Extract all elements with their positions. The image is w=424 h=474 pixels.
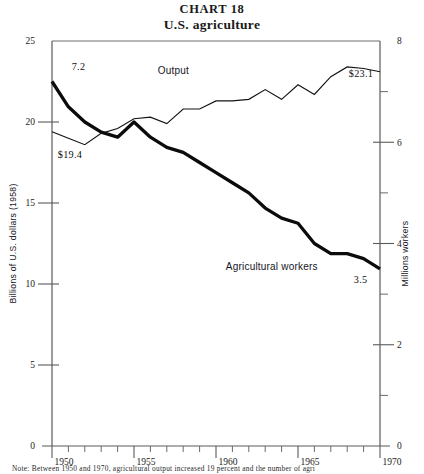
left-axis-tick-label: 5	[30, 360, 35, 370]
right-axis-tick-label: 0	[397, 441, 402, 451]
chart-number-label: CHART 18	[0, 2, 424, 17]
workers-end-value-label: 3.5	[354, 274, 368, 285]
output-start-value-label: $19.4	[58, 149, 82, 160]
chart-figure: CHART 18 U.S. agriculture 0510152025Bill…	[0, 0, 424, 474]
workers-start-value-label: 7.2	[72, 61, 86, 72]
right-axis-tick-label: 2	[397, 340, 402, 350]
right-axis-title: Millions workers	[400, 221, 410, 287]
left-axis-tick-label: 10	[26, 279, 36, 289]
agricultural-workers-line-series	[52, 82, 380, 269]
chart-title-block: CHART 18 U.S. agriculture	[0, 2, 424, 33]
left-axis-title: Billions of U.S. dollars (1958)	[8, 183, 18, 303]
left-axis-tick-label: 0	[30, 441, 35, 451]
right-axis-tick-label: 8	[397, 36, 402, 46]
left-axis-tick-label: 15	[26, 198, 36, 208]
left-axis-tick-label: 20	[26, 117, 36, 127]
output-series-label: Output	[158, 65, 189, 76]
page-title: U.S. agriculture	[0, 17, 424, 33]
chart-footnote: Note: Between 1950 and 1970, agricultura…	[12, 464, 418, 474]
workers-series-label: Agricultural workers	[226, 261, 318, 272]
left-axis-tick-label: 25	[26, 36, 36, 46]
right-axis-tick-label: 6	[397, 138, 402, 148]
output-end-value-label: $23.1	[349, 68, 373, 79]
chart-plot-area: 0510152025Billions of U.S. dollars (1958…	[0, 0, 424, 474]
